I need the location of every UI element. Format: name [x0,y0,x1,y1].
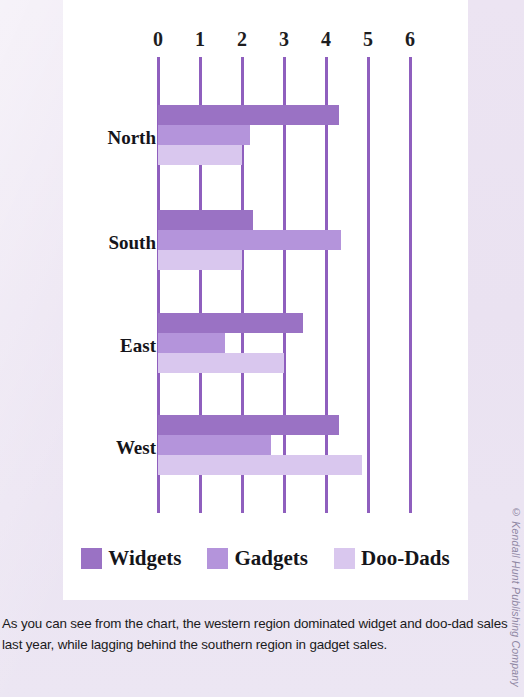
figure-caption: As you can see from the chart, the weste… [0,613,484,655]
legend-label-widgets: Widgets [108,548,181,569]
bar-south-widgets [158,210,253,230]
bar-south-doodads [158,250,242,270]
legend-label-gadgets: Gadgets [234,548,308,569]
gridline [367,57,370,513]
x-axis-tick-label: 3 [269,29,299,49]
legend-label-doodads: Doo-Dads [361,548,450,569]
bar-east-doodads [158,353,284,373]
gridline [325,57,328,513]
category-label-north: North [6,128,156,147]
publisher-credit: © Kendall Hunt Publishing Company [510,506,522,687]
category-label-south: South [6,233,156,252]
chart-legend: Widgets Gadgets Doo-Dads [63,548,468,569]
legend-swatch-gadgets-icon [207,548,228,569]
legend-item-doodads: Doo-Dads [334,548,450,569]
x-axis-tick-label: 1 [185,29,215,49]
legend-item-widgets: Widgets [81,548,181,569]
caption-line-2: last year, while lagging behind the sout… [2,634,484,655]
legend-swatch-widgets-icon [81,548,102,569]
chart-panel: 0123456NorthSouthEastWest Widgets Gadget… [63,0,468,600]
gridline [409,57,412,513]
x-axis-tick-label: 5 [353,29,383,49]
legend-item-gadgets: Gadgets [207,548,308,569]
legend-swatch-doodads-icon [334,548,355,569]
bar-north-doodads [158,145,242,165]
bar-east-gadgets [158,333,225,353]
x-axis-tick-label: 6 [395,29,425,49]
bar-west-widgets [158,415,339,435]
bar-chart: 0123456NorthSouthEastWest [63,0,468,600]
x-axis-tick-label: 0 [143,29,173,49]
bar-west-gadgets [158,435,271,455]
category-label-west: West [6,438,156,457]
bar-north-gadgets [158,125,250,145]
caption-line-1: As you can see from the chart, the weste… [2,613,484,634]
bar-north-widgets [158,105,339,125]
page-background: 0123456NorthSouthEastWest Widgets Gadget… [0,0,524,697]
x-axis-tick-label: 4 [311,29,341,49]
bar-west-doodads [158,455,362,475]
bar-east-widgets [158,313,303,333]
bar-south-gadgets [158,230,341,250]
category-label-east: East [6,336,156,355]
x-axis-tick-label: 2 [227,29,257,49]
gridline [283,57,286,513]
